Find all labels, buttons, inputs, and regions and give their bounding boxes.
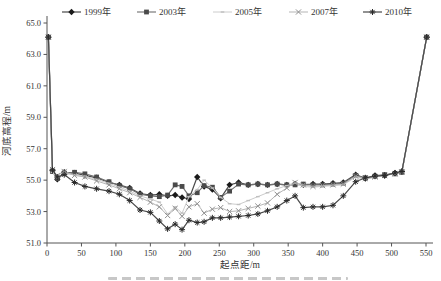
legend-label-2010年: 2010年 — [385, 6, 412, 17]
asterisk-marker — [106, 188, 112, 194]
series-line-2007年 — [48, 37, 426, 216]
dash-marker — [237, 204, 241, 205]
square-marker — [148, 193, 153, 198]
square-marker — [165, 193, 170, 198]
square-marker — [236, 182, 241, 187]
x-tick-label: 150 — [144, 248, 157, 258]
y-tick-label: 59.0 — [26, 112, 41, 122]
asterisk-marker — [274, 204, 280, 210]
square-marker — [265, 182, 270, 187]
legend-label-2003年: 2003年 — [159, 6, 186, 17]
dash-marker — [149, 198, 153, 199]
square-marker — [144, 10, 149, 15]
x-tick-label: 50 — [77, 248, 86, 258]
asterisk-marker — [72, 180, 78, 186]
asterisk-marker — [186, 217, 192, 223]
x-marker — [186, 204, 191, 209]
square-marker — [246, 182, 251, 187]
square-marker — [275, 182, 280, 187]
x-marker — [265, 200, 270, 205]
x-tick-label: 350 — [282, 248, 295, 258]
x-marker — [179, 214, 184, 219]
x-tick-label: 400 — [316, 248, 329, 258]
series-line-2003年 — [48, 37, 426, 197]
asterisk-marker — [116, 191, 122, 197]
dash-marker — [221, 11, 225, 12]
x-tick-label: 100 — [110, 248, 123, 258]
x-marker — [148, 200, 153, 205]
x-tick-label: 500 — [385, 248, 398, 258]
y-tick-label: 65.0 — [26, 18, 41, 28]
asterisk-marker — [209, 215, 215, 221]
asterisk-marker — [54, 174, 60, 180]
y-tick-label: 53.0 — [26, 207, 41, 217]
x-tick-label: 200 — [178, 248, 191, 258]
asterisk-marker — [392, 170, 398, 176]
asterisk-marker — [227, 214, 233, 220]
asterisk-marker — [424, 34, 430, 40]
x-marker — [202, 211, 207, 216]
asterisk-marker — [236, 213, 242, 219]
dash-marker — [228, 203, 232, 204]
dash-marker — [275, 188, 279, 189]
square-marker — [210, 185, 215, 190]
y-tick-label: 51.0 — [26, 238, 41, 248]
diamond-marker — [179, 194, 185, 200]
diamond-marker — [68, 9, 74, 15]
asterisk-marker — [127, 198, 133, 204]
asterisk-marker — [320, 204, 326, 210]
x-tick-label: 450 — [351, 248, 364, 258]
dash-marker — [187, 196, 191, 197]
series-line-2010年 — [48, 37, 426, 230]
y-tick-label: 55.0 — [26, 175, 41, 185]
asterisk-marker — [245, 213, 251, 219]
dash-marker — [211, 187, 215, 188]
square-marker — [157, 194, 162, 199]
asterisk-marker — [194, 220, 200, 226]
x-tick-label: 250 — [213, 248, 226, 258]
legend-label-2005年: 2005年 — [235, 6, 262, 17]
series-line-1999年 — [48, 37, 426, 199]
y-tick-label: 63.0 — [26, 49, 41, 59]
dash-marker — [202, 179, 206, 180]
x-tick-label: 0 — [45, 248, 49, 258]
square-marker — [202, 183, 207, 188]
line-chart-canvas: 51.053.055.057.059.061.063.065.005010015… — [0, 0, 441, 281]
dash-marker — [195, 189, 199, 190]
x-tick-label: 550 — [420, 248, 433, 258]
dash-marker — [219, 197, 223, 198]
dash-marker — [246, 200, 250, 201]
asterisk-marker — [370, 9, 376, 15]
y-tick-label: 61.0 — [26, 81, 41, 91]
x-marker — [195, 201, 200, 206]
asterisk-marker — [353, 179, 359, 185]
asterisk-marker — [265, 208, 271, 214]
x-axis-title: 起点距/m — [220, 260, 261, 270]
x-tick-label: 300 — [247, 248, 260, 258]
square-marker — [255, 182, 260, 187]
square-marker — [173, 182, 178, 187]
asterisk-marker — [165, 226, 171, 232]
asterisk-marker — [218, 215, 224, 221]
legend-label-1999年: 1999年 — [84, 6, 111, 17]
legend-label-2007年: 2007年 — [311, 6, 338, 17]
y-tick-label: 57.0 — [26, 144, 41, 154]
dash-marker — [180, 212, 184, 213]
cropped-caption-remnant — [108, 277, 348, 280]
asterisk-marker — [45, 34, 51, 40]
square-marker — [227, 189, 232, 194]
y-axis-title: 河底高程/m — [1, 105, 12, 156]
x-marker — [275, 192, 280, 197]
series-line-2005年 — [48, 37, 426, 214]
diamond-marker — [172, 192, 178, 198]
dash-marker — [266, 192, 270, 193]
asterisk-marker — [284, 198, 290, 204]
dash-marker — [256, 196, 260, 197]
diamond-marker — [226, 182, 232, 188]
asterisk-marker — [94, 186, 100, 192]
asterisk-marker — [330, 202, 336, 208]
dash-marker — [158, 201, 162, 202]
square-marker — [180, 184, 185, 189]
asterisk-marker — [201, 219, 207, 225]
x-marker — [157, 204, 162, 209]
